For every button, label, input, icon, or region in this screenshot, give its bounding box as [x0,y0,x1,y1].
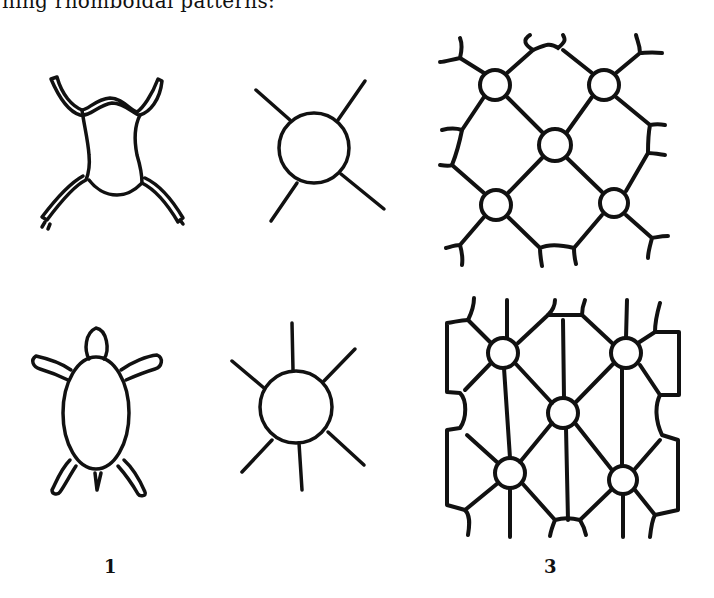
turtle-motif [33,328,162,496]
sun-motif [232,323,364,490]
circle-4-rays-motif [256,81,384,221]
lattice-pattern-bottom [447,298,679,537]
frog-motif [42,77,183,229]
lattice-pattern-top [440,35,668,266]
figure-label-3: 3 [544,556,557,577]
illustration [0,0,714,598]
figure-label-1: 1 [104,556,117,577]
